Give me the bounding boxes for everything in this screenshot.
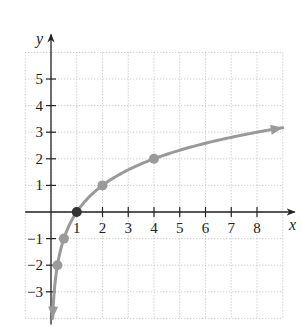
data-point	[59, 234, 69, 244]
grid	[25, 52, 283, 318]
y-tick-label: 5	[36, 71, 44, 87]
y-tick-label: 2	[36, 151, 44, 167]
curve-arrow-right-icon	[270, 125, 283, 135]
y-tick-label: −2	[27, 257, 43, 273]
data-point	[98, 180, 108, 190]
y-tick-label: 1	[36, 177, 44, 193]
x-tick-label: 2	[99, 220, 107, 236]
axes	[25, 34, 295, 324]
x-tick-label: 3	[125, 220, 133, 236]
chart: 12345678−3−2−112345 x y	[0, 0, 302, 327]
curve-arrow-down-icon	[48, 306, 58, 318]
y-tick-label: −3	[27, 284, 43, 300]
data-point	[149, 154, 159, 164]
x-tick-label: 5	[176, 220, 184, 236]
x-tick-label: 7	[228, 220, 236, 236]
y-axis-label: y	[34, 30, 44, 48]
y-tick-label: 4	[36, 98, 44, 114]
x-tick-label: 6	[202, 220, 210, 236]
x-axis-label: x	[288, 216, 296, 233]
data-point	[52, 260, 62, 270]
curve-line	[53, 128, 283, 319]
x-tick-label: 8	[253, 220, 261, 236]
data-point	[72, 207, 82, 217]
y-tick-label: −1	[27, 231, 43, 247]
y-tick-label: 3	[36, 124, 44, 140]
x-tick-label: 4	[150, 220, 158, 236]
x-tick-label: 1	[73, 220, 81, 236]
log-curve	[48, 125, 283, 319]
